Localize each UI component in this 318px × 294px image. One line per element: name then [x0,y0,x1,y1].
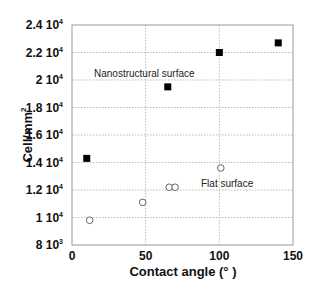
nanostructural-point [216,49,223,56]
flat-point [139,199,146,206]
y-tick-label: 1 104 [36,211,63,225]
y-tick-label: 2 104 [36,73,63,87]
nanostructural-point [83,155,90,162]
annotation-nanostructural: Nanostructural surface [94,68,195,79]
annotation-flat: Flat surface [201,178,254,189]
scatter-chart: 8 1031 1041.2 1041.4 1041.6 1041.8 1042 … [0,0,318,294]
y-tick-label: 8 103 [36,238,63,252]
x-tick-label: 150 [283,249,303,263]
y-axis-label: Cell/mm2 [19,107,35,163]
x-tick-label: 0 [69,249,76,263]
x-tick-label: 50 [139,249,153,263]
gridlines [72,25,293,245]
flat-point [172,184,179,191]
nanostructural-point [275,39,282,46]
data-points [83,39,282,223]
svg-text:Cell/mm2: Cell/mm2 [19,107,35,163]
flat-point [218,165,225,172]
x-axis-ticks: 050100150 [69,249,304,263]
y-tick-label: 1.2 104 [26,183,63,197]
y-tick-label: 2.4 104 [26,18,63,32]
y-tick-label: 2.2 104 [26,46,63,60]
x-tick-label: 100 [209,249,229,263]
nanostructural-point [164,83,171,90]
x-axis-label: Contact angle (° ) [129,264,236,279]
flat-point [86,217,93,224]
